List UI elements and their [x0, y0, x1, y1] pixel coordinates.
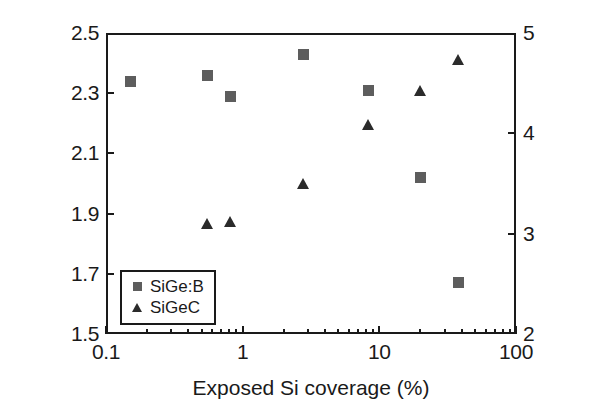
y-axis-left-tick-label: 1.7	[71, 263, 99, 284]
x-axis-minor-tick	[372, 329, 374, 334]
y-axis-left-tick	[106, 152, 114, 154]
data-point-sigec	[452, 54, 464, 65]
x-axis-minor-tick	[502, 329, 504, 334]
x-axis-tick	[105, 326, 107, 334]
x-axis-minor-tick	[211, 329, 213, 334]
y-axis-left-tick	[106, 92, 114, 94]
x-axis-tick	[242, 326, 244, 334]
x-axis-minor-tick	[494, 329, 496, 334]
y-axis-left-tick	[106, 273, 114, 275]
data-point-sigec	[297, 178, 309, 189]
x-axis-minor-tick	[201, 329, 203, 334]
data-point-sige-b	[453, 277, 464, 288]
x-axis-tick-label: 0.1	[61, 341, 151, 363]
y-axis-right-tick-label: 3	[523, 223, 535, 244]
x-axis-minor-tick	[357, 329, 359, 334]
x-axis-minor-tick	[283, 329, 285, 334]
x-axis-tick	[515, 326, 517, 334]
x-axis-minor-tick	[461, 329, 463, 334]
data-point-sige-b	[125, 76, 136, 87]
data-point-sige-b	[298, 49, 309, 60]
data-point-sige-b	[202, 70, 213, 81]
x-axis-title: Exposed Si coverage (%)	[106, 375, 516, 401]
x-axis-minor-tick	[170, 329, 172, 334]
x-axis-minor-tick	[444, 329, 446, 334]
x-axis-tick-label: 10	[334, 341, 424, 363]
y-axis-left-tick-label: 2.1	[71, 142, 99, 163]
y-axis-left-tick-label: 1.9	[71, 203, 99, 224]
legend-item-sigec: SiGeC	[129, 297, 204, 318]
x-axis-minor-tick	[187, 329, 189, 334]
x-axis-minor-tick	[220, 329, 222, 334]
legend-item-sige-b: SiGe:B	[129, 276, 204, 297]
x-axis-minor-tick	[474, 329, 476, 334]
y-axis-right-tick-label: 5	[523, 22, 535, 43]
data-point-sige-b	[225, 91, 236, 102]
legend-triangle-marker-icon	[129, 303, 145, 312]
y-axis-left-tick-label: 2.3	[71, 82, 99, 103]
data-point-sige-b	[363, 85, 374, 96]
x-axis-tick-label: 1	[198, 341, 288, 363]
y-axis-right-tick	[508, 233, 516, 235]
x-axis-minor-tick	[348, 329, 350, 334]
x-axis-minor-tick	[307, 329, 309, 334]
data-point-sigec	[224, 216, 236, 227]
chart-legend: SiGe:B SiGeC	[120, 270, 216, 325]
data-point-sigec	[362, 119, 374, 130]
y-axis-left-tick	[106, 213, 114, 215]
chart-figure: 2.52.32.11.91.71.554320.1110100 B concen…	[0, 0, 616, 419]
x-axis-minor-tick	[235, 329, 237, 334]
x-axis-minor-tick	[337, 329, 339, 334]
x-axis-minor-tick	[146, 329, 148, 334]
data-point-sige-b	[415, 172, 426, 183]
y-axis-right-tick	[508, 132, 516, 134]
x-axis-tick	[378, 326, 380, 334]
legend-square-marker-icon	[129, 282, 145, 291]
x-axis-tick-label: 100	[471, 341, 561, 363]
data-point-sigec	[414, 85, 426, 96]
x-axis-minor-tick	[365, 329, 367, 334]
x-axis-minor-tick	[509, 329, 511, 334]
x-axis-minor-tick	[485, 329, 487, 334]
x-axis-minor-tick	[324, 329, 326, 334]
y-axis-left-tick-label: 2.5	[71, 22, 99, 43]
data-point-sigec	[201, 218, 213, 229]
legend-label: SiGeC	[150, 298, 200, 317]
x-axis-minor-tick	[419, 329, 421, 334]
y-axis-right-tick-label: 4	[523, 122, 535, 143]
legend-label: SiGe:B	[150, 277, 204, 296]
x-axis-minor-tick	[228, 329, 230, 334]
